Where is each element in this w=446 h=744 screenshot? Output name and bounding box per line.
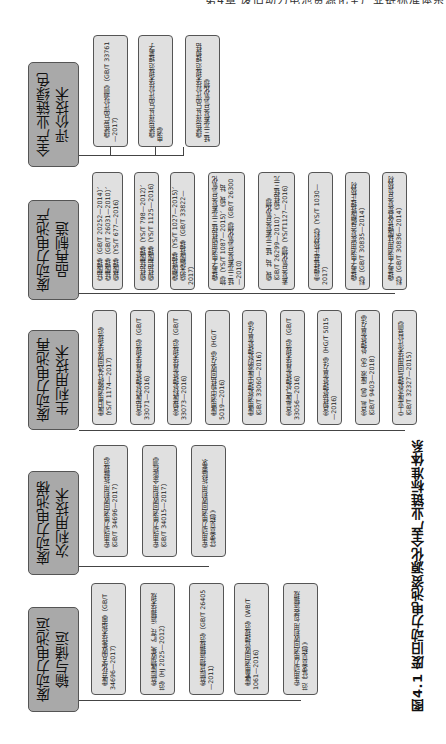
standard-box: 《绿色产品评价通则》（GB/T 33761—2017） bbox=[93, 35, 128, 147]
standard-box: 《富锂锰基正极材料》（YS/T 1030—2017） bbox=[308, 172, 333, 290]
standard-text: 《废电池处理中废液的处理处置方法》（GB/T 33060—2016） bbox=[247, 315, 263, 420]
standard-text: 《工业废水处理与回用技术评价导则》（GB/T 32327—2015） bbox=[397, 315, 413, 420]
standard-text: 《绿色产品评价通则》（GB/T 33761—2017） bbox=[103, 40, 119, 142]
standard-box: 《钴酸锂》（GB/T 20252—2014）、《锰酸锂》（GB/T 26031—… bbox=[92, 172, 123, 290]
standard-text: 《含氟（氯）废液（水）处理处置方法》（GB/T 9403—2018） bbox=[360, 315, 376, 420]
standard-box: 《镍钴锰酸锂》（YS/T 798—2012）、《镍钴铝酸锂》（YS/T 1125… bbox=[134, 172, 159, 290]
standard-text: 《锂离子电池用炭复合磷酸铁锂正极材料》（GB/T 30835—2014） bbox=[350, 177, 366, 285]
connector-line bbox=[183, 147, 184, 155]
standard-box: 《废弃化学品收集技术指南》（GB/T 34696—2017） bbox=[91, 583, 126, 695]
standard-text: 《锂离子电池用镍钴锰三元素复合氢氧化物》（YS/T 1087—2015）、《镍、… bbox=[211, 177, 243, 285]
connector-line bbox=[155, 147, 156, 155]
standard-text: 《含镍废料处理处置技术规范》（GB/T 33073—2016） bbox=[172, 315, 188, 420]
standard-text: 《废弃化学品收集技术指南》（GB/T 34696—2017） bbox=[101, 588, 117, 690]
standard-box: 《废电池中镍钴回收方法》（HG/T 5019—2016） bbox=[205, 310, 230, 425]
category-label: 废动力电池运输与储运 bbox=[35, 612, 73, 708]
standard-text: 《磷酸铁锂》（YS/T 1027—2015）、《纳米磷酸铁锂》（GB/T 338… bbox=[171, 177, 195, 285]
standard-box: 《危险货物运输规范》（GB/T 26405—2011） bbox=[189, 583, 224, 695]
category-label: 全产业链绿色评价技术 bbox=[35, 67, 73, 163]
category-cascade-use: 废动力电池梯次利用技术 bbox=[28, 471, 79, 575]
category-transport-storage: 废动力电池运输与储运 bbox=[28, 607, 79, 712]
standard-text: 《含钴废料处理处置技术规范》（GB/T 33071—2016） bbox=[135, 315, 151, 420]
standard-text: 《车用动力电池回收利用 拆解规范》（GB/T 34696—2017） bbox=[103, 450, 119, 552]
standard-box: 《车用动力电池回收利用 拆除要求（征求意见稿）》 bbox=[191, 445, 226, 557]
category-label: 废动力电池再生利用技术 bbox=[35, 332, 73, 428]
category-green-evaluation: 全产业链绿色评价技术 bbox=[28, 62, 79, 167]
standard-box: 《含钴废料处理处置技术规范》（GB/T 33071—2016） bbox=[130, 310, 155, 425]
standard-text: 《车用动力电池回收利用 余能检测》（GB/T 34015—2017） bbox=[152, 450, 168, 552]
standard-box: 《含镍钴处理处置方法》（HG/T 5015—2016） bbox=[317, 310, 342, 425]
standard-text: 《锂离子电池用钛酸锂及其炭复合负极材料》（GB/T 30836—2014） bbox=[387, 177, 403, 285]
standard-box: 《废旧电池破碎分选回收技术规范》（YS/T 1174—2017） bbox=[92, 310, 117, 425]
standard-box: 《含镍废料处理处置技术规范》（GB/T 33073—2016） bbox=[167, 310, 192, 425]
standard-box: 《废蓄电池回收管理规范》（WB/T 1061—2016） bbox=[234, 583, 269, 695]
connector-line bbox=[79, 293, 395, 294]
connector-line bbox=[79, 155, 184, 156]
connector-line bbox=[79, 700, 301, 701]
standard-box: 《废电池处理中废液的处理处置方法》（GB/T 33060—2016） bbox=[242, 310, 267, 425]
standard-text: 《绿色设计产品评价技术规范 锂离子电池》 bbox=[148, 40, 164, 142]
figure-caption: 图4.1 废旧动力电池资源化全产业链标准体系 bbox=[408, 410, 436, 740]
standard-text: 《废蓄电池回收管理规范》（WB/T 1061—2016） bbox=[244, 588, 260, 690]
category-remanufacture: 废动力电池产品再制造 bbox=[28, 200, 79, 300]
standard-text: 《钴酸锂》（GB/T 20252—2014）、《锰酸锂》（GB/T 26031—… bbox=[96, 177, 120, 285]
standard-box: 《含氟废气处理处置技术规范》（GB/T 33056—2016） bbox=[280, 310, 305, 425]
category-label: 废动力电池产品再制造 bbox=[35, 202, 73, 298]
standard-text: 《废电池中镍钴回收方法》（HG/T 5019—2016） bbox=[210, 315, 226, 420]
caption-text: 图4.1 废旧动力电池资源化全产业链标准体系 bbox=[408, 439, 427, 712]
standard-text: 《危险货物运输规范》（GB/T 26405—2011） bbox=[199, 588, 215, 690]
standard-box: 《锂离子电池用镍钴锰三元素复合氢氧化物》（YS/T 1087—2015）、《镍、… bbox=[208, 172, 245, 290]
standard-box: 《磷酸铁锂》（YS/T 1027—2015）、《纳米磷酸铁锂》（GB/T 338… bbox=[170, 172, 195, 290]
standard-box: 《工业废水处理与回用技术评价导则》（GB/T 32327—2015） bbox=[392, 310, 417, 425]
standard-box: 《镍、钴、锰三元素复合氧化物》（GB/T 26299—2010）、《镍钴锰三元素… bbox=[258, 172, 295, 290]
standard-box: 《车用动力电池回收利用 包装运输规范（征求意见稿）》 bbox=[283, 583, 318, 695]
standard-text: 《镍钴锰酸锂》（YS/T 798—2012）、《镍钴铝酸锂》（YS/T 1125… bbox=[139, 177, 155, 285]
standard-box: 《绿色设计产品评价技术规范 锂镍钴锰三元素复合氢氧化物》 bbox=[185, 35, 220, 147]
standard-text: 《废旧电池破碎分选回收技术规范》（YS/T 1174—2017） bbox=[97, 315, 113, 420]
category-label: 废动力电池梯次利用技术 bbox=[35, 475, 73, 571]
standard-text: 《富锂锰基正极材料》（YS/T 1030—2017） bbox=[313, 177, 329, 285]
standard-text: 《车用动力电池回收利用 包装运输规范（征求意见稿）》 bbox=[293, 588, 309, 690]
category-recycling: 废动力电池再生利用技术 bbox=[28, 330, 79, 430]
standard-box: 《车用动力电池回收利用 拆解规范》（GB/T 34696—2017） bbox=[93, 445, 128, 557]
standard-box: 《车用动力电池回收利用 余能检测》（GB/T 34015—2017） bbox=[142, 445, 177, 557]
connector-line bbox=[79, 430, 405, 431]
standard-box: 《危险废物收集、贮存、运输技术规范》（HJ 2025—2012） bbox=[140, 583, 175, 695]
running-head: 第4章 废旧动力电池资源化全产业链标准体系 bbox=[205, 0, 446, 4]
standard-text: 《镍、钴、锰三元素复合氧化物》（GB/T 26299—2010）、《镍钴锰三元素… bbox=[265, 177, 289, 285]
standard-box: 《锂离子电池用钛酸锂及其炭复合负极材料》（GB/T 30836—2014） bbox=[382, 172, 407, 290]
standard-text: 《绿色设计产品评价技术规范 锂镍钴锰三元素复合氢氧化物》 bbox=[195, 40, 211, 142]
connector-line bbox=[110, 147, 111, 155]
connector-line bbox=[79, 566, 209, 567]
standard-text: 《含镍钴处理处置方法》（HG/T 5015—2016） bbox=[322, 315, 338, 420]
standard-text: 《车用动力电池回收利用 拆除要求（征求意见稿）》 bbox=[201, 450, 217, 552]
standard-text: 《含氟废气处理处置技术规范》（GB/T 33056—2016） bbox=[285, 315, 301, 420]
standard-box: 《锂离子电池用炭复合磷酸铁锂正极材料》（GB/T 30835—2014） bbox=[345, 172, 370, 290]
standard-box: 《绿色设计产品评价技术规范 锂离子电池》 bbox=[138, 35, 173, 147]
standard-box: 《含氟（氯）废液（水）处理处置方法》（GB/T 9403—2018） bbox=[355, 310, 380, 425]
standard-text: 《危险废物收集、贮存、运输技术规范》（HJ 2025—2012） bbox=[150, 588, 166, 690]
